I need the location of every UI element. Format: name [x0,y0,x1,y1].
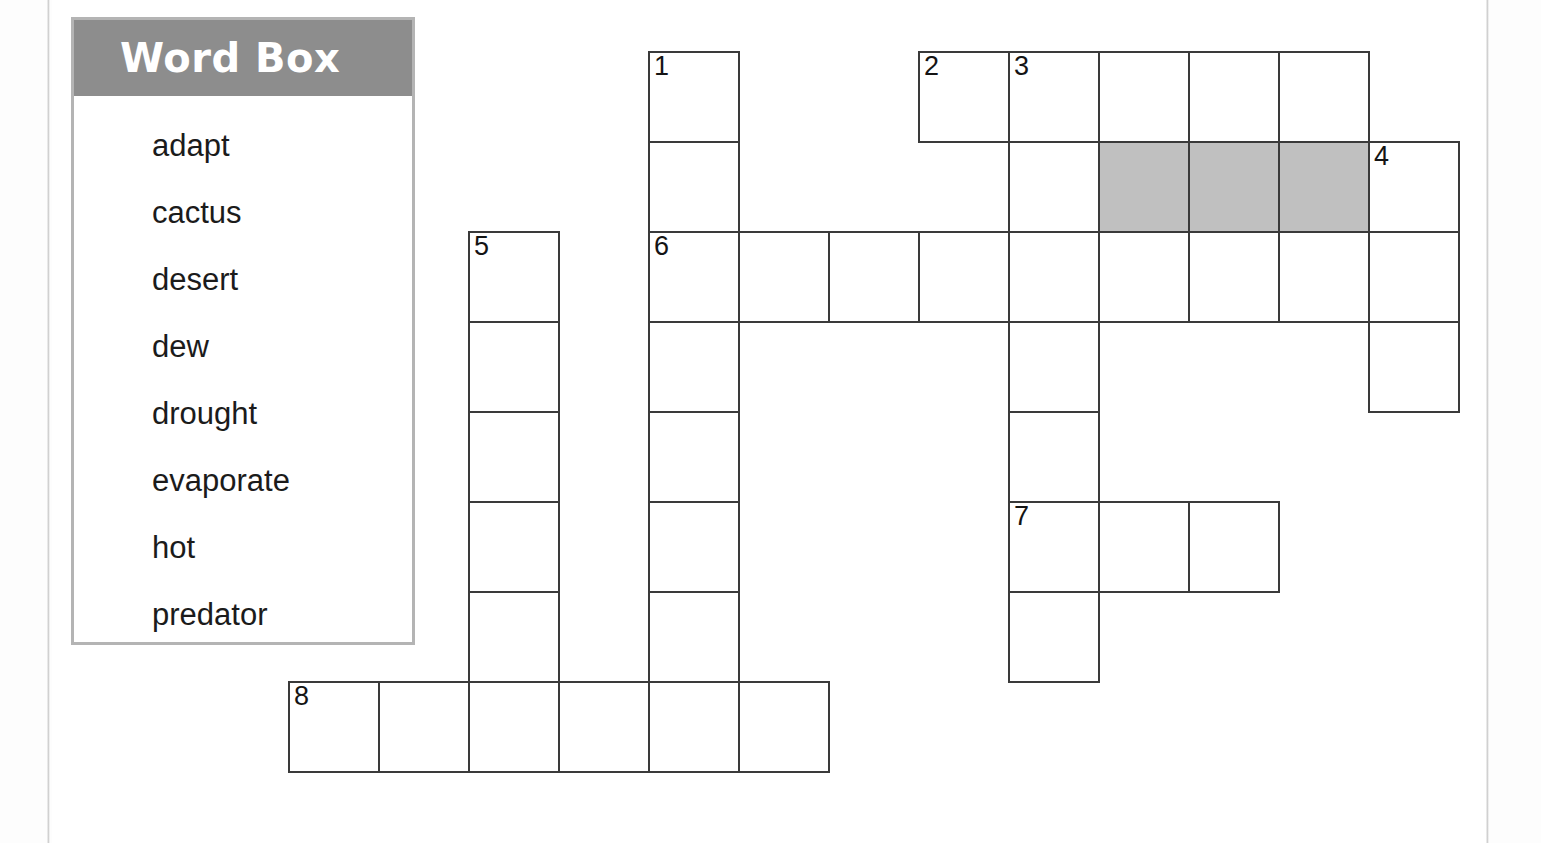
crossword-cell[interactable] [1188,501,1280,593]
crossword-cell[interactable] [1278,141,1370,233]
clue-number: 3 [1014,51,1029,81]
crossword-cell[interactable] [1098,141,1190,233]
crossword-cell[interactable] [1008,591,1100,683]
crossword-cell[interactable] [468,501,560,593]
clue-number: 1 [654,51,669,81]
crossword-cell[interactable] [1008,141,1100,233]
crossword-cell[interactable] [738,681,830,773]
crossword-cell-6[interactable]: 6 [648,231,740,323]
crossword-cell[interactable] [1368,321,1460,413]
crossword-cell[interactable] [1098,231,1190,323]
crossword-cell-3[interactable]: 3 [1008,51,1100,143]
crossword-cell[interactable] [468,411,560,503]
crossword-cell[interactable] [1098,501,1190,593]
crossword-cell[interactable] [648,321,740,413]
crossword-cell[interactable] [378,681,470,773]
clue-number: 5 [474,231,489,261]
clue-number: 7 [1014,501,1029,531]
crossword-cell[interactable] [648,141,740,233]
crossword-cell[interactable] [1278,51,1370,143]
clue-number: 8 [294,681,309,711]
clue-number: 4 [1374,141,1389,171]
crossword-cell[interactable] [468,591,560,683]
crossword-cell[interactable] [1008,231,1100,323]
crossword-cell[interactable] [468,321,560,413]
crossword-cell-7[interactable]: 7 [1008,501,1100,593]
crossword-cell-2[interactable]: 2 [918,51,1010,143]
crossword-grid[interactable]: 12345678 [0,0,1541,843]
crossword-cell[interactable] [1368,231,1460,323]
crossword-cell[interactable] [1188,51,1280,143]
crossword-cell[interactable] [1098,51,1190,143]
crossword-cell[interactable] [648,501,740,593]
crossword-cell[interactable] [1008,411,1100,503]
crossword-cell-4[interactable]: 4 [1368,141,1460,233]
crossword-cell[interactable] [648,591,740,683]
crossword-cell-5[interactable]: 5 [468,231,560,323]
crossword-cell[interactable] [558,681,650,773]
crossword-cell[interactable] [1278,231,1370,323]
clue-number: 6 [654,231,669,261]
crossword-cell[interactable] [648,681,740,773]
clue-number: 2 [924,51,939,81]
crossword-cell[interactable] [828,231,920,323]
crossword-cell[interactable] [1188,141,1280,233]
crossword-cell-8[interactable]: 8 [288,681,380,773]
crossword-cell-1[interactable]: 1 [648,51,740,143]
crossword-cell[interactable] [648,411,740,503]
crossword-cell[interactable] [1008,321,1100,413]
crossword-cell[interactable] [468,681,560,773]
crossword-cell[interactable] [1188,231,1280,323]
crossword-cell[interactable] [738,231,830,323]
crossword-cell[interactable] [918,231,1010,323]
